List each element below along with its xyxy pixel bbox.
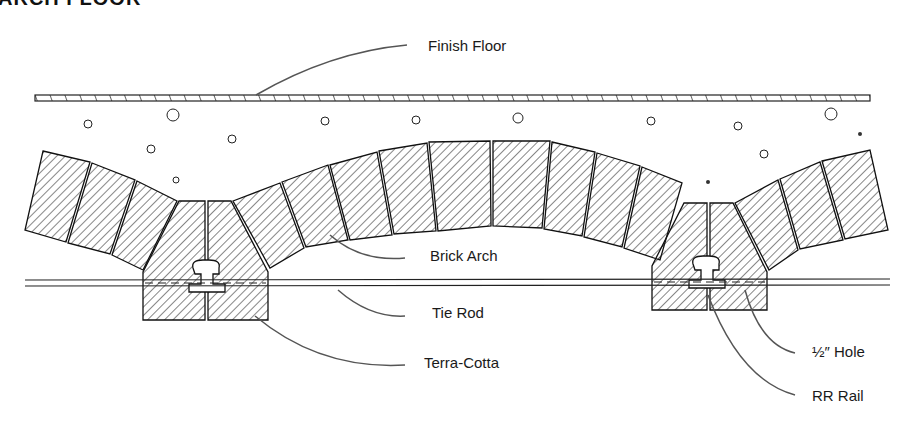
brick-arch-right-haunch — [735, 150, 888, 270]
label-brick-arch: Brick Arch — [430, 247, 498, 264]
label-rr-rail: RR Rail — [812, 387, 864, 404]
label-terra-cotta: Terra-Cotta — [424, 354, 499, 371]
finish-floor — [35, 95, 870, 101]
label-tie-rod: Tie Rod — [432, 304, 484, 321]
label-half-inch-hole: ½″ Hole — [812, 343, 865, 360]
label-finish-floor: Finish Floor — [428, 37, 506, 54]
